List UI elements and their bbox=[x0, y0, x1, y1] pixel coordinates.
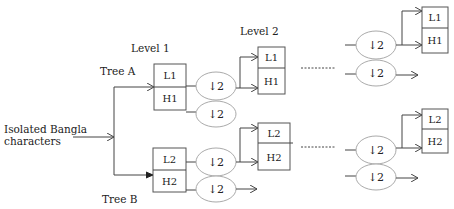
band-h1: H1 bbox=[427, 35, 442, 46]
downsample-node: ↓2 bbox=[356, 136, 396, 164]
downsample-node: ↓2 bbox=[356, 31, 396, 59]
band-l1: L1 bbox=[428, 12, 441, 23]
downsample-label: ↓2 bbox=[368, 171, 384, 184]
downsample-label: ↓2 bbox=[368, 67, 384, 80]
band-l2: L2 bbox=[163, 154, 176, 165]
downsample-label: ↓2 bbox=[208, 80, 224, 93]
input-label-line2: characters bbox=[4, 135, 61, 147]
tree-a-level2-node: L1 H1 bbox=[258, 47, 285, 94]
tree-b-final-node: L2 H2 bbox=[422, 109, 448, 153]
band-h1: H1 bbox=[162, 93, 177, 104]
tree-b-level1-node: L2 H2 bbox=[153, 148, 186, 192]
tree-a-label: Tree A bbox=[100, 65, 136, 77]
tree-b-label: Tree B bbox=[102, 193, 138, 205]
level2-label: Level 2 bbox=[240, 25, 279, 37]
band-l1: L1 bbox=[163, 70, 176, 81]
downsample-node: ↓2 bbox=[356, 164, 396, 190]
tree-a-final-node: L1 H1 bbox=[422, 7, 448, 53]
band-h1: H1 bbox=[264, 76, 279, 87]
downsample-node: ↓2 bbox=[196, 148, 236, 176]
band-l2: L2 bbox=[267, 128, 280, 139]
band-h2: H2 bbox=[162, 176, 177, 187]
level1-label: Level 1 bbox=[131, 42, 170, 54]
band-h2: H2 bbox=[266, 152, 281, 163]
band-h2: H2 bbox=[427, 136, 442, 147]
band-l1: L1 bbox=[265, 52, 278, 63]
band-l2: L2 bbox=[428, 114, 441, 125]
downsample-node: ↓2 bbox=[196, 101, 236, 127]
tree-a-level1-node: L1 H1 bbox=[154, 64, 186, 110]
downsample-node: ↓2 bbox=[196, 72, 236, 100]
downsample-node: ↓2 bbox=[196, 176, 236, 202]
wavelet-tree-diagram: Isolated Bangla characters Level 1 Level… bbox=[0, 0, 454, 209]
downsample-label: ↓2 bbox=[208, 156, 224, 169]
input-label-line1: Isolated Bangla bbox=[4, 123, 87, 135]
downsample-node: ↓2 bbox=[356, 60, 396, 86]
downsample-label: ↓2 bbox=[208, 183, 224, 196]
downsample-label: ↓2 bbox=[368, 144, 384, 157]
downsample-label: ↓2 bbox=[368, 39, 384, 52]
tree-b-level2-node: L2 H2 bbox=[258, 123, 293, 170]
downsample-label: ↓2 bbox=[208, 108, 224, 121]
